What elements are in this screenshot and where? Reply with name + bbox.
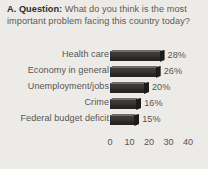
- bar-top-bevel: [110, 50, 161, 52]
- x-axis: 0 10 20 30 40: [110, 136, 205, 150]
- bar-end-cap: [156, 66, 161, 78]
- bar-end-cap: [134, 114, 139, 126]
- bar-chart: Health care 28% Economy in general 26%: [0, 48, 208, 169]
- bar-crime: [110, 98, 141, 110]
- question-label: A. Question:: [7, 4, 62, 14]
- bar-fill: [110, 67, 157, 77]
- category-label: Federal budget deficit: [20, 112, 109, 128]
- x-axis-tick: 40: [183, 136, 193, 148]
- bar-fill: [110, 51, 161, 61]
- category-label: Health care: [62, 48, 109, 64]
- bar-federal-budget-deficit: [110, 114, 139, 126]
- bar-fill: [110, 99, 137, 109]
- chart-row: Federal budget deficit 15%: [0, 112, 208, 128]
- chart-row: Unemployment/jobs 20%: [0, 80, 208, 96]
- value-label: 20%: [152, 81, 170, 94]
- bar-top-bevel: [110, 66, 157, 68]
- x-axis-tick: 10: [124, 136, 134, 148]
- bar-top-bevel: [110, 114, 135, 116]
- category-label: Economy in general: [28, 64, 109, 80]
- figure-container: A. Question: What do you think is the mo…: [0, 0, 208, 169]
- value-label: 26%: [164, 65, 182, 78]
- bar-unemployment-jobs: [110, 82, 149, 94]
- value-label: 16%: [144, 97, 162, 110]
- chart-row: Crime 16%: [0, 96, 208, 112]
- value-label: 15%: [142, 113, 160, 126]
- bar-economy-in-general: [110, 66, 161, 78]
- value-label: 28%: [168, 49, 186, 62]
- chart-rows: Health care 28% Economy in general 26%: [0, 48, 208, 128]
- category-label: Crime: [85, 96, 110, 112]
- chart-row: Health care 28%: [0, 48, 208, 64]
- bar-top-bevel: [110, 82, 145, 84]
- question-block: A. Question: What do you think is the mo…: [7, 3, 203, 28]
- bar-fill: [110, 115, 135, 125]
- x-axis-tick: 20: [144, 136, 154, 148]
- bar-health-care: [110, 50, 165, 62]
- bar-end-cap: [160, 50, 165, 62]
- bar-end-cap: [136, 98, 141, 110]
- bar-fill: [110, 83, 145, 93]
- x-axis-tick: 0: [107, 136, 112, 148]
- x-axis-tick: 30: [163, 136, 173, 148]
- bar-top-bevel: [110, 98, 137, 100]
- chart-row: Economy in general 26%: [0, 64, 208, 80]
- category-label: Unemployment/jobs: [28, 80, 109, 96]
- bar-end-cap: [144, 82, 149, 94]
